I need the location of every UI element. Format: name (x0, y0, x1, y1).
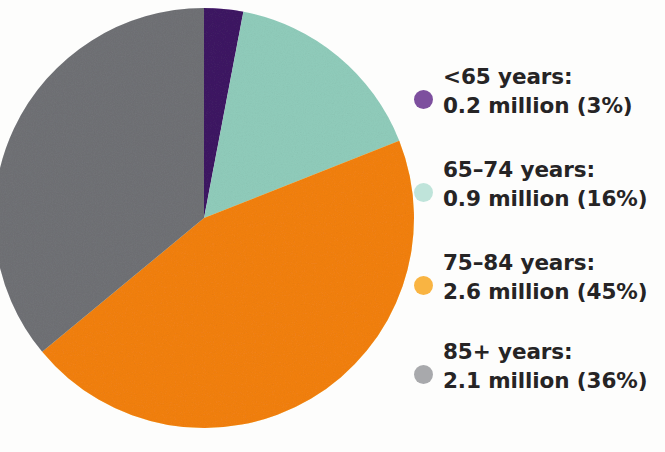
legend-label-line2: 0.9 million (16%) (443, 184, 665, 213)
legend-label: 75–84 years: 2.6 million (45%) (443, 248, 665, 306)
legend-swatch-icon (414, 90, 433, 109)
pie-svg (0, 0, 420, 452)
legend-label-line1: 75–84 years: (443, 248, 665, 277)
legend-item: 65–74 years: 0.9 million (16%) (404, 155, 665, 233)
legend-swatch-icon (414, 276, 433, 295)
chart-legend: <65 years: 0.2 million (3%) 65–74 years:… (404, 52, 665, 412)
legend-label: <65 years: 0.2 million (3%) (443, 62, 665, 120)
legend-label: 85+ years: 2.1 million (36%) (443, 337, 665, 395)
legend-swatch-icon (414, 183, 433, 202)
legend-item: 85+ years: 2.1 million (36%) (404, 337, 665, 415)
pie-chart-figure: <65 years: 0.2 million (3%) 65–74 years:… (0, 0, 665, 452)
legend-label-line2: 2.1 million (36%) (443, 366, 665, 395)
legend-label-line1: 65–74 years: (443, 155, 665, 184)
legend-label-line2: 2.6 million (45%) (443, 277, 665, 306)
pie-chart-graphic (0, 0, 420, 452)
legend-label-line1: <65 years: (443, 62, 665, 91)
legend-item: <65 years: 0.2 million (3%) (404, 62, 665, 140)
legend-label: 65–74 years: 0.9 million (16%) (443, 155, 665, 213)
legend-label-line1: 85+ years: (443, 337, 665, 366)
legend-swatch-icon (414, 365, 433, 384)
legend-item: 75–84 years: 2.6 million (45%) (404, 248, 665, 326)
legend-label-line2: 0.2 million (3%) (443, 91, 665, 120)
